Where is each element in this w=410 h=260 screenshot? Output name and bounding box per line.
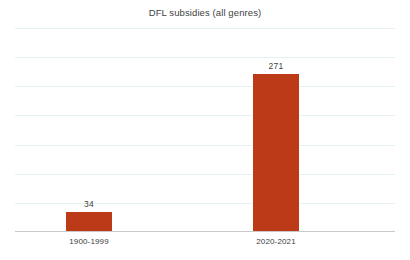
category-label: 1900-1999	[39, 237, 139, 246]
bar-value-label: 34	[39, 199, 139, 209]
x-axis-line	[15, 231, 395, 232]
bar[interactable]	[66, 212, 112, 232]
bar-chart: DFL subsidies (all genres) 34271 1900-19…	[0, 0, 410, 260]
bar[interactable]	[253, 74, 299, 232]
category-label: 2020-2021	[226, 237, 326, 246]
chart-title: DFL subsidies (all genres)	[0, 7, 410, 18]
bar-value-label: 271	[226, 61, 326, 71]
bar-group: 34	[39, 28, 139, 232]
plot-area: 34271	[15, 28, 395, 232]
bar-group: 271	[226, 28, 326, 232]
